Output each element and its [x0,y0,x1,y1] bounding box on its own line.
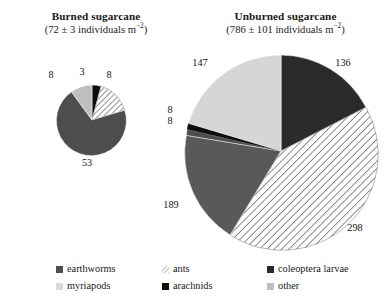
panel-title-unburned: Unburned sugarcane (786 ± 101 individual… [186,9,385,37]
legend-item-ants[interactable]: ants [162,264,267,274]
legend-swatch-myriapods-icon [56,283,63,290]
legend: earthworms ants coleoptera larvae myriap… [56,261,356,295]
value-label-unburned-coleoptera-larvae: 136 [330,57,356,68]
legend-label-myriapods: myriapods [67,281,110,291]
pie-unburned-svg [183,53,379,249]
panel-title-unburned-main: Unburned sugarcane [186,9,385,23]
pie-chart-figure: Burned sugarcane (72 ± 3 individuals m−2… [0,0,385,300]
legend-item-other[interactable]: other [267,281,356,291]
value-label-unburned-arachnids: 8 [164,115,176,126]
burned-sub-prefix: (72 ± 3 individuals m [45,24,136,35]
value-label-unburned-ants: 298 [342,222,368,233]
legend-swatch-other-icon [267,283,274,290]
value-label-unburned-earthworms: 8 [164,104,176,115]
legend-item-arachnids[interactable]: arachnids [162,281,267,291]
value-label-burned-arachnids: 3 [74,66,90,77]
unburned-sub-suffix: ) [341,24,345,35]
legend-label-arachnids: arachnids [173,281,212,291]
pie-burned-svg [56,84,128,156]
legend-item-coleoptera-larvae[interactable]: coleoptera larvae [267,264,356,274]
panel-title-unburned-sub: (786 ± 101 individuals m−2) [186,23,385,37]
value-label-unburned-other: 147 [187,57,213,68]
legend-swatch-arachnids-icon [162,283,169,290]
legend-label-coleoptera-larvae: coleoptera larvae [278,264,349,274]
burned-sub-suffix: ) [144,24,148,35]
value-label-burned-other: 8 [43,69,59,80]
unburned-sub-sup: −2 [333,22,341,31]
unburned-sub-prefix: (786 ± 101 individuals m [226,24,333,35]
legend-item-myriapods[interactable]: myriapods [56,281,162,291]
panel-title-burned: Burned sugarcane (72 ± 3 individuals m−2… [0,9,192,37]
legend-swatch-earthworms-icon [56,266,63,273]
legend-swatch-ants-icon [162,266,169,273]
pie-unburned [183,53,379,249]
legend-label-earthworms: earthworms [67,264,116,274]
burned-sub-sup: −2 [136,22,144,31]
value-label-unburned-myriapods: 189 [158,199,184,210]
legend-item-earthworms[interactable]: earthworms [56,264,162,274]
pie-burned [56,84,128,156]
legend-swatch-coleoptera-larvae-icon [267,266,274,273]
legend-label-other: other [278,281,299,291]
panel-title-burned-main: Burned sugarcane [0,9,192,23]
value-label-burned-ants: 8 [101,69,117,80]
value-label-burned-earthworms: 53 [76,157,98,168]
panel-title-burned-sub: (72 ± 3 individuals m−2) [0,23,192,37]
legend-label-ants: ants [173,264,190,274]
